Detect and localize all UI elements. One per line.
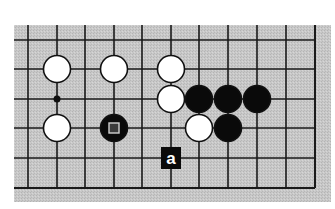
point-label-a: a bbox=[166, 149, 176, 168]
white-stone bbox=[101, 56, 128, 83]
white-stone bbox=[44, 115, 71, 142]
white-stone bbox=[186, 115, 213, 142]
black-stone bbox=[186, 86, 213, 113]
black-stone bbox=[215, 86, 242, 113]
black-stone bbox=[244, 86, 271, 113]
labels: a bbox=[161, 147, 181, 169]
white-stone bbox=[158, 56, 185, 83]
white-stone bbox=[158, 86, 185, 113]
star-point-icon bbox=[54, 96, 61, 103]
white-stone bbox=[44, 56, 71, 83]
black-stone bbox=[215, 115, 242, 142]
go-board-diagram: a bbox=[0, 0, 335, 209]
star-points bbox=[54, 96, 61, 103]
square-marker-icon bbox=[109, 123, 119, 133]
board-background bbox=[14, 25, 331, 202]
